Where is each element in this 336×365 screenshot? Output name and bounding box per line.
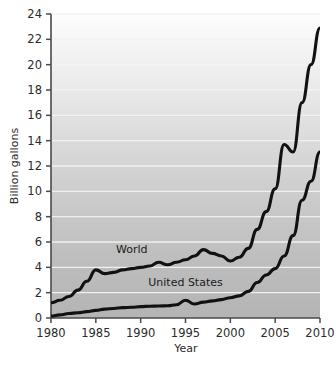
x-tick-label: 1985: [81, 326, 110, 340]
y-tick-label: 2: [35, 286, 42, 300]
x-tick-label: 1990: [126, 326, 155, 340]
y-axis-title: Billion gallons: [8, 128, 21, 205]
y-tick-label: 4: [35, 260, 42, 274]
series-label-world: World: [116, 243, 148, 256]
y-tick-label: 8: [35, 210, 42, 224]
x-tick-label: 2000: [216, 326, 245, 340]
y-tick-label: 18: [27, 83, 42, 97]
chart-container: 024681012141618202224 198019851990199520…: [0, 0, 336, 365]
y-tick-label: 20: [27, 58, 42, 72]
y-tick-label: 16: [27, 108, 42, 122]
line-chart: 024681012141618202224 198019851990199520…: [0, 0, 336, 365]
y-tick-label: 6: [35, 235, 42, 249]
x-tick-label: 2010: [305, 326, 334, 340]
y-tick-label: 22: [27, 32, 42, 46]
y-tick-label: 24: [27, 7, 42, 21]
y-tick-label: 10: [27, 184, 42, 198]
x-axis-title: Year: [173, 342, 198, 355]
y-tick-label: 0: [35, 311, 42, 325]
y-tick-label: 14: [27, 134, 42, 148]
x-tick-label: 2005: [261, 326, 290, 340]
y-tick-label: 12: [27, 159, 42, 173]
x-tick-label: 1980: [36, 326, 65, 340]
x-tick-label: 1995: [171, 326, 200, 340]
series-label-united-states: United States: [148, 276, 223, 289]
